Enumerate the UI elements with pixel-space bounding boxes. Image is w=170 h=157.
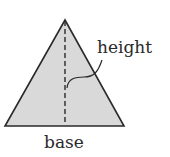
base-label: base bbox=[44, 132, 84, 152]
height-label: height bbox=[97, 37, 152, 57]
triangle-diagram: height base bbox=[0, 0, 170, 157]
